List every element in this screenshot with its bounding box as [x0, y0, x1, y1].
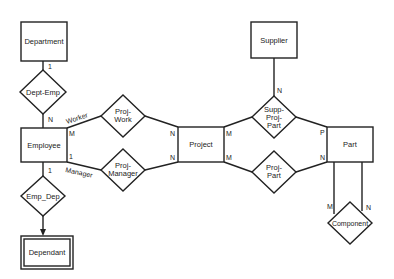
- relationship-label: Component: [332, 220, 368, 228]
- cardinality-supplier-supp-proj-part: N: [277, 87, 282, 94]
- entity-label: Dependant: [29, 248, 67, 257]
- entity-label: Department: [24, 37, 64, 46]
- role-manager: Manager: [65, 166, 94, 180]
- entity-label: Supplier: [260, 36, 288, 45]
- relationship-label: Dept-Emp: [26, 88, 60, 97]
- relationship-supp-proj-part[interactable]: Supp- Proj- Part: [252, 96, 296, 138]
- cardinality-part-proj-part: N: [320, 154, 325, 161]
- cardinality-employee-proj-manager: 1: [69, 153, 73, 160]
- cardinality-project-proj-manager: N: [170, 154, 175, 161]
- entity-label: Part: [343, 140, 358, 149]
- entity-employee[interactable]: Employee: [21, 128, 67, 162]
- relationship-label-line2: Part: [267, 171, 282, 180]
- er-diagram: Department Employee Dependant Project Su…: [0, 0, 394, 279]
- entity-dependant[interactable]: Dependant: [21, 236, 73, 269]
- cardinality-employee-dept-emp: N: [48, 116, 53, 123]
- line-proj-part-part: [296, 162, 327, 172]
- cardinality-project-proj-part: M: [226, 154, 232, 161]
- entity-supplier[interactable]: Supplier: [251, 22, 297, 58]
- relationship-label: Emp_Dep: [26, 192, 59, 201]
- relationship-emp-dep[interactable]: Emp_Dep: [21, 176, 65, 216]
- entity-label: Employee: [27, 141, 60, 150]
- relationship-label-line3: Part: [267, 121, 282, 130]
- relationship-proj-part[interactable]: Proj- Part: [252, 151, 296, 193]
- arrow-head-icon: [40, 229, 46, 236]
- roles: Worker Manager: [65, 111, 94, 180]
- entity-department[interactable]: Department: [21, 22, 67, 61]
- cardinality-part-component-right: N: [366, 204, 371, 211]
- cardinality-employee-emp-dep: 1: [48, 167, 52, 174]
- cardinality-part-supp-proj-part: P: [320, 129, 325, 136]
- line-project-supp-proj-part: [224, 117, 252, 127]
- relationship-dept-emp[interactable]: Dept-Emp: [20, 70, 66, 114]
- role-worker: Worker: [65, 111, 89, 125]
- cardinality-project-supp-proj-part: M: [226, 130, 232, 137]
- line-supp-proj-part-part: [296, 117, 327, 127]
- relationship-proj-manager[interactable]: Proj- Manager: [101, 149, 145, 191]
- cardinality-employee-proj-work: M: [69, 130, 75, 137]
- relationship-label-line2: Work: [114, 115, 132, 124]
- relationship-proj-work[interactable]: Proj- Work: [101, 95, 145, 137]
- line-proj-manager-project: [145, 162, 178, 170]
- entity-label: Project: [189, 140, 213, 149]
- entity-project[interactable]: Project: [178, 127, 224, 162]
- line-proj-work-project: [145, 116, 178, 127]
- relationship-label-line2: Manager: [108, 169, 138, 178]
- cardinality-department-dept-emp: 1: [48, 63, 52, 70]
- entity-part[interactable]: Part: [327, 127, 373, 162]
- cardinality-part-component-left: M: [327, 203, 333, 210]
- line-project-proj-part: [224, 162, 252, 172]
- cardinality-project-proj-work: N: [170, 130, 175, 137]
